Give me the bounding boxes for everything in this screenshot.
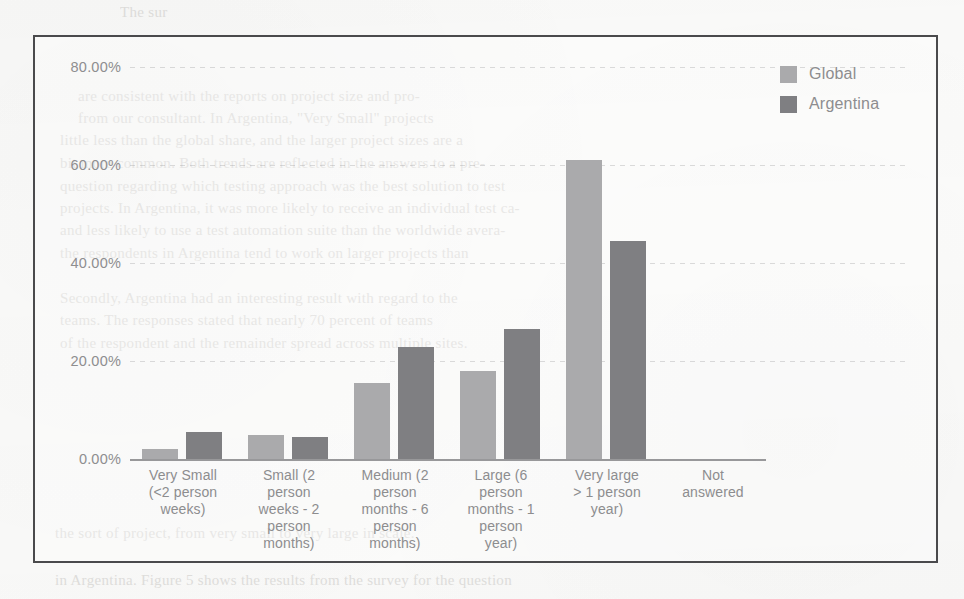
bar-argentina[interactable] bbox=[186, 432, 222, 459]
legend-swatch-icon bbox=[780, 66, 797, 83]
bar-argentina[interactable] bbox=[398, 347, 434, 459]
y-tick-label: 80.00% bbox=[45, 59, 121, 75]
bleed-text-top: The sur bbox=[120, 4, 168, 21]
bar-global[interactable] bbox=[566, 160, 602, 459]
legend-swatch-icon bbox=[780, 96, 797, 113]
bar-group bbox=[448, 37, 554, 459]
y-tick-label: 20.00% bbox=[45, 353, 121, 369]
chart-figure: 80.00% 60.00% 40.00% 20.00% 0.00% bbox=[33, 35, 938, 563]
bar-group bbox=[236, 37, 342, 459]
bar-global[interactable] bbox=[460, 371, 496, 459]
bleed-text-footer: in Argentina. Figure 5 shows the results… bbox=[55, 572, 512, 589]
x-tick-label-large: Large (6personmonths - 1personyear) bbox=[448, 467, 554, 552]
y-tick-label: 60.00% bbox=[45, 157, 121, 173]
legend-label: Argentina bbox=[809, 95, 879, 113]
legend-item-global[interactable]: Global bbox=[780, 59, 879, 89]
legend-item-argentina[interactable]: Argentina bbox=[780, 89, 879, 119]
bar-argentina[interactable] bbox=[610, 241, 646, 459]
x-tick-label-very-small: Very Small(<2 personweeks) bbox=[130, 467, 236, 518]
y-tick-label: 40.00% bbox=[45, 255, 121, 271]
y-tick-label: 0.00% bbox=[45, 451, 121, 467]
bar-group bbox=[660, 37, 766, 459]
legend-label: Global bbox=[809, 65, 856, 83]
y-axis: 80.00% 60.00% 40.00% 20.00% 0.00% bbox=[45, 37, 121, 561]
x-tick-label-very-large: Very large> 1 personyear) bbox=[554, 467, 660, 518]
bar-group bbox=[130, 37, 236, 459]
bar-global[interactable] bbox=[354, 383, 390, 459]
x-tick-label-small: Small (2personweeks - 2personmonths) bbox=[236, 467, 342, 552]
chart-legend: Global Argentina bbox=[780, 59, 879, 119]
x-axis-line bbox=[130, 459, 766, 461]
x-tick-label-medium: Medium (2personmonths - 6personmonths) bbox=[342, 467, 448, 552]
bar-global[interactable] bbox=[142, 449, 178, 459]
bar-argentina[interactable] bbox=[292, 437, 328, 459]
bar-group bbox=[554, 37, 660, 459]
bar-global[interactable] bbox=[248, 435, 284, 460]
x-tick-label-not-answered: Notanswered bbox=[660, 467, 766, 501]
document-page: The sur are consistent with the reports … bbox=[0, 0, 964, 599]
bars-layer bbox=[130, 37, 766, 459]
bar-argentina[interactable] bbox=[504, 329, 540, 459]
bar-group bbox=[342, 37, 448, 459]
